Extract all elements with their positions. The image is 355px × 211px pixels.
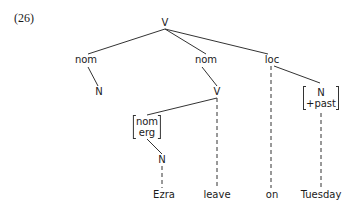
node-nom-left: nom [75, 55, 97, 65]
node-nom-mid: nom [195, 55, 217, 65]
feature-erg: erg [136, 127, 158, 138]
node-nom-erg-matrix: nom erg [133, 116, 161, 138]
node-n-left: N [95, 87, 102, 97]
leaf-on: on [266, 190, 278, 200]
edge-loc-npast [274, 66, 320, 83]
node-n-ezra: N [158, 155, 165, 165]
edge-nom-n-left [88, 67, 98, 86]
node-v-mid: V [214, 87, 221, 97]
edge-nom-v-mid [202, 67, 217, 86]
leaf-leave: leave [203, 190, 230, 200]
leaf-ezra: Ezra [153, 190, 175, 200]
edge-v-nomerg [147, 98, 217, 115]
feature-nom: nom [136, 116, 158, 127]
tree-edges [0, 0, 355, 211]
example-number: (26) [14, 11, 34, 26]
feature-n: N [306, 87, 336, 98]
feature-past: +past [306, 98, 336, 109]
node-root-v: V [162, 18, 169, 28]
node-loc: loc [265, 55, 279, 65]
leaf-tuesday: Tuesday [301, 190, 342, 200]
edge-v-nom-mid [165, 29, 206, 54]
node-n-past-matrix: N +past [303, 87, 339, 109]
edge-nomerg-n [147, 139, 162, 154]
edge-v-loc [165, 29, 268, 54]
edge-v-nom-left [88, 29, 165, 54]
